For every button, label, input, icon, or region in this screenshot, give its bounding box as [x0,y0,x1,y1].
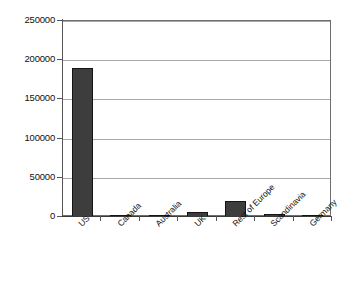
plot-area [62,20,331,216]
y-axis-tick-label: 50000 [3,172,55,182]
x-axis-tick-mark [254,216,255,221]
x-axis-tick-mark [139,216,140,221]
x-axis-tick-mark [216,216,217,221]
gridline [63,21,330,22]
y-axis-tick-labels: 050000100000150000200000250000 [0,0,55,293]
x-axis-tick-mark [100,216,101,221]
gridline [63,60,330,61]
gridline [63,99,330,100]
gridline [63,178,330,179]
y-axis-tick-mark [57,98,62,99]
y-axis-tick-mark [57,59,62,60]
y-axis-tick-label: 200000 [3,54,55,64]
bar [72,68,93,217]
gridline [63,139,330,140]
y-axis-line [62,19,63,217]
y-axis-tick-mark [57,138,62,139]
x-axis-tick-mark [331,216,332,221]
y-axis-tick-mark [57,20,62,21]
x-axis-tick-mark [177,216,178,221]
y-axis-tick-label: 0 [3,211,55,221]
y-axis-tick-label: 250000 [3,15,55,25]
y-axis-tick-label: 150000 [3,93,55,103]
x-axis-tick-mark [293,216,294,221]
y-axis-tick-label: 100000 [3,133,55,143]
y-axis-tick-mark [57,216,62,217]
y-axis-tick-mark [57,177,62,178]
bar-chart: 050000100000150000200000250000 USCanadaA… [0,0,348,293]
